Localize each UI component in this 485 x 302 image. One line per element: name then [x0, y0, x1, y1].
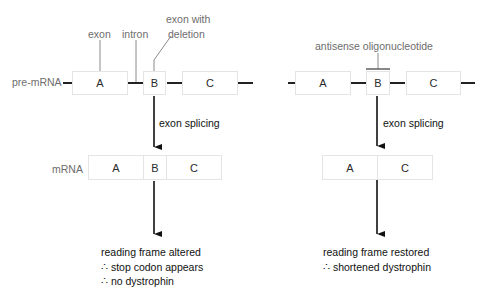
mrna-label: mRNA: [52, 163, 83, 175]
pre-mrna-exon-c: C: [182, 71, 238, 95]
exon-label: exon: [88, 28, 111, 40]
intron-line: [167, 82, 182, 84]
pre-mrna-exon-a-right: A: [295, 71, 351, 95]
splicing-label-left: exon splicing: [159, 117, 220, 129]
pre-mrna-exon-c-right: C: [406, 71, 461, 95]
outcome-right-line-1: reading frame restored: [323, 246, 429, 258]
intron-line: [351, 82, 366, 84]
exon-with-deletion-label-2: deletion: [168, 28, 205, 40]
antisense-label: antisense oligonucleotide: [315, 40, 433, 52]
intron-line: [390, 82, 405, 84]
mrna-exon-b: B: [143, 155, 167, 180]
outcome-left-line-1: reading frame altered: [101, 246, 201, 258]
pre-mrna-exon-b: B: [143, 71, 166, 95]
outcome-left-line-2: ∴ stop codon appears: [101, 261, 203, 273]
mrna-exon-c: C: [166, 155, 222, 180]
exon-with-deletion-label-1: exon with: [166, 13, 210, 25]
mrna-exon-a: A: [88, 155, 144, 180]
intron-line: [128, 82, 143, 84]
deletion-leader-line: [154, 36, 171, 72]
pre-mrna-label: pre-mRNA: [12, 76, 62, 88]
mrna-exon-a-right: A: [322, 155, 378, 180]
pre-mrna-exon-b-right: B: [366, 71, 390, 95]
mrna-exon-c-right: C: [377, 155, 433, 180]
intron-line: [288, 82, 295, 84]
splicing-label-right: exon splicing: [383, 117, 444, 129]
intron-line: [240, 82, 253, 84]
outcome-left-line-3: ∴ no dystrophin: [101, 275, 174, 287]
intron-label: intron: [122, 28, 148, 40]
pre-mrna-exon-a: A: [72, 71, 128, 95]
intron-line: [63, 82, 72, 84]
intron-line: [461, 82, 475, 84]
outcome-right-line-2: ∴ shortened dystrophin: [323, 261, 431, 273]
